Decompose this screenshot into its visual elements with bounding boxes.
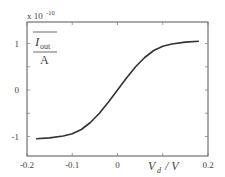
svg-text:/ V: / V xyxy=(164,159,180,173)
data-series xyxy=(36,41,199,139)
x-axis-label: V d / V xyxy=(148,159,180,175)
svg-text:A: A xyxy=(40,53,49,67)
svg-text:d: d xyxy=(157,166,162,175)
svg-text:V: V xyxy=(148,159,157,173)
x-tick-label: -0.1 xyxy=(65,160,79,170)
chart: -101-0.2-0.100.2 x 10 -10 I out A V d / … xyxy=(0,0,225,177)
y-tick-label: -1 xyxy=(12,132,20,142)
svg-text:x 10: x 10 xyxy=(27,11,43,21)
svg-text:out: out xyxy=(40,42,51,51)
y-tick-label: 1 xyxy=(15,39,20,49)
svg-text:-10: -10 xyxy=(46,9,55,16)
x-tick-label: -0.2 xyxy=(20,160,34,170)
x-tick-label: 0 xyxy=(115,160,120,170)
y-tick-label: 0 xyxy=(15,85,20,95)
y-axis-label: I out A xyxy=(33,32,57,67)
x-tick-label: 0.2 xyxy=(202,160,213,170)
series-line xyxy=(36,41,199,139)
y-scale-label: x 10 -10 xyxy=(27,9,55,21)
